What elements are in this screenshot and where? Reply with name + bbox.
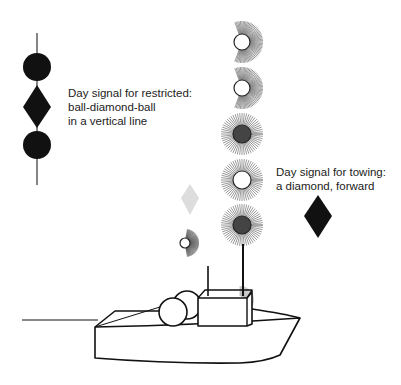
towing-diamond-shape — [304, 195, 332, 238]
red-light-upper — [221, 113, 263, 155]
restricted-signal — [23, 33, 51, 185]
red-light-lower — [221, 204, 263, 246]
navigation-lights — [180, 21, 263, 314]
restricted-label-line3: in a vertical line — [68, 114, 192, 128]
masthead-light-2 — [234, 67, 263, 109]
reel-front — [159, 298, 187, 326]
deck-line — [95, 307, 160, 327]
restricted-label: Day signal for restricted: ball-diamond-… — [68, 86, 192, 128]
towing-label-line1: Day signal for towing: — [276, 165, 386, 179]
towing-label-line2: a diamond, forward — [276, 179, 386, 193]
sidelight — [180, 229, 199, 257]
ball-shape-bottom — [23, 131, 51, 159]
ball-shape-top — [23, 53, 51, 81]
restricted-label-line1: Day signal for restricted: — [68, 86, 192, 100]
masthead-light-top — [234, 21, 263, 63]
diamond-shape — [23, 85, 51, 128]
faint-diamond-shape — [181, 184, 199, 215]
white-light — [221, 159, 263, 201]
boat-illustration — [22, 244, 300, 363]
towing-label: Day signal for towing: a diamond, forwar… — [276, 165, 386, 193]
restricted-label-line2: ball-diamond-ball — [68, 100, 192, 114]
